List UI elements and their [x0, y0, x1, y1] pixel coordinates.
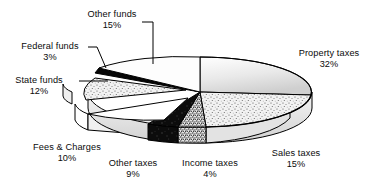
- pie-chart: Other funds 15% Federal funds 3% State f…: [0, 0, 370, 191]
- label-property-taxes-pct: 32%: [290, 59, 368, 70]
- slice-side-income-taxes: [178, 127, 206, 143]
- label-sales-taxes-pct: 15%: [258, 159, 334, 170]
- label-sales-taxes: Sales taxes 15%: [258, 148, 334, 169]
- label-federal-funds: Federal funds 3%: [10, 41, 90, 62]
- label-other-funds-pct: 15%: [70, 20, 154, 31]
- label-property-taxes-name: Property taxes: [290, 48, 368, 59]
- label-other-taxes: Other taxes 9%: [92, 158, 174, 179]
- label-income-taxes-name: Income taxes: [167, 158, 253, 169]
- label-other-taxes-name: Other taxes: [92, 158, 174, 169]
- label-federal-funds-name: Federal funds: [10, 41, 90, 52]
- label-other-funds: Other funds 15%: [70, 9, 154, 30]
- label-other-taxes-pct: 9%: [92, 169, 174, 180]
- label-state-funds-pct: 12%: [2, 86, 76, 97]
- label-income-taxes: Income taxes 4%: [167, 158, 253, 179]
- label-federal-funds-pct: 3%: [10, 52, 90, 63]
- label-other-funds-name: Other funds: [70, 9, 154, 20]
- label-fees-charges-name: Fees & Charges: [14, 142, 120, 153]
- label-sales-taxes-name: Sales taxes: [258, 148, 334, 159]
- leader-federal-funds: [88, 47, 106, 68]
- label-state-funds-name: State funds: [2, 75, 76, 86]
- label-state-funds: State funds 12%: [2, 75, 76, 96]
- label-income-taxes-pct: 4%: [167, 169, 253, 180]
- label-property-taxes: Property taxes 32%: [290, 48, 368, 69]
